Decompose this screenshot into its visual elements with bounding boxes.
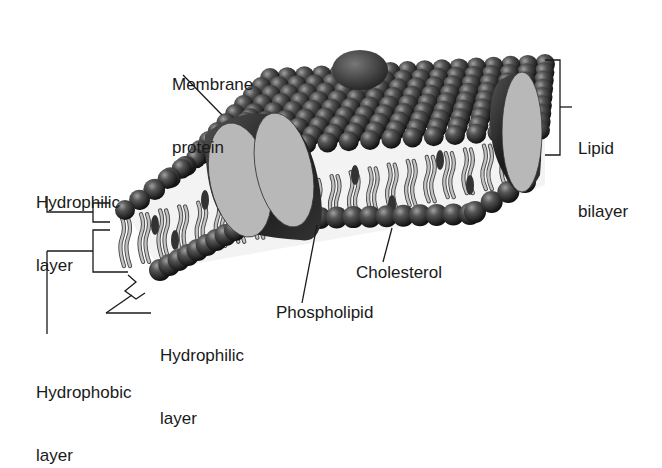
label-line: Membrane: [172, 74, 253, 95]
label-line: Hydrophobic: [36, 382, 131, 403]
membrane-protein-label: Membrane protein: [172, 32, 253, 200]
label-line: Lipid: [578, 138, 628, 159]
label-line: protein: [172, 137, 253, 158]
label-line: bilayer: [578, 201, 628, 222]
hydrophilic-layer-top-label: Hydrophilic layer: [36, 150, 120, 318]
label-line: Hydrophilic: [36, 192, 120, 213]
hydrophobic-layer-label: Hydrophobic layer: [36, 340, 131, 468]
label-line: layer: [36, 445, 131, 466]
lipid-bilayer-label: Lipid bilayer: [578, 96, 628, 264]
peripheral-protein: [332, 50, 388, 90]
phospholipid-label: Phospholipid: [276, 302, 373, 323]
hydrophilic-layer-bottom-label: Hydrophilic layer: [160, 303, 244, 468]
label-line: layer: [36, 255, 120, 276]
label-line: Hydrophilic: [160, 345, 244, 366]
cholesterol-label: Cholesterol: [356, 262, 442, 283]
label-line: layer: [160, 408, 244, 429]
